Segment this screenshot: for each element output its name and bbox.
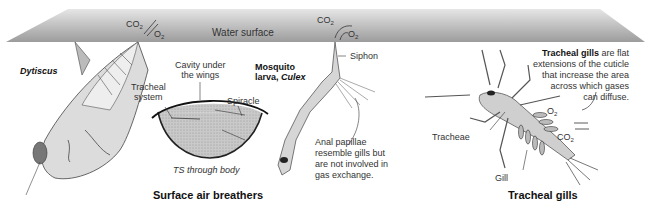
tracheal-system-label: Tracheal system <box>131 82 166 102</box>
co2-text: CO <box>317 15 331 25</box>
co2-subscript: 2 <box>571 137 574 143</box>
co2-text: CO <box>126 19 140 29</box>
cavity-line2: the wings <box>175 70 226 80</box>
desc-line1: Tracheal gills are flat <box>533 48 629 59</box>
mosquito-name-line2: larva, Culex <box>255 72 306 82</box>
o2-subscript: 2 <box>355 34 358 40</box>
spiracle-label: Spiracle <box>227 96 260 106</box>
anal-note-line3: are not involved in <box>315 159 388 170</box>
ts-caption: TS through body <box>173 165 240 175</box>
gills-o2-label: O2 <box>547 106 557 119</box>
tracheal-system-line2: system <box>131 92 166 102</box>
dytiscus-co2-label: CO2 <box>126 19 143 32</box>
cavity-label: Cavity under the wings <box>175 60 226 80</box>
surface-air-breathers-heading: Surface air breathers <box>153 189 263 201</box>
co2-subscript: 2 <box>331 20 334 26</box>
water-surface-label: Water surface <box>212 28 274 38</box>
tracheal-gills-description: Tracheal gills are flat extensions of th… <box>533 48 629 103</box>
o2-text: O <box>348 29 355 39</box>
mosquito-co2-label: CO2 <box>317 15 334 28</box>
co2-text: CO <box>557 132 571 142</box>
desc-line5: can diffuse. <box>533 92 629 103</box>
dytiscus-label: Dytiscus <box>20 66 58 76</box>
dytiscus-o2-label: O2 <box>154 29 164 42</box>
desc-line4: across which gases <box>533 81 629 92</box>
tracheal-system-line1: Tracheal <box>131 82 166 92</box>
o2-subscript: 2 <box>554 111 557 117</box>
anal-note-line1: Anal papillae <box>315 137 388 148</box>
anal-note-line4: gas exchange. <box>315 170 388 181</box>
gills-co2-label: CO2 <box>557 132 574 145</box>
anal-note-line2: resemble gills but <box>315 148 388 159</box>
tracheae-label: Tracheae <box>432 132 470 142</box>
cavity-line1: Cavity under <box>175 60 226 70</box>
mosquito-name-line1: Mosquito <box>255 62 306 72</box>
o2-text: O <box>154 29 161 39</box>
co2-subscript: 2 <box>140 24 143 30</box>
o2-text: O <box>547 106 554 116</box>
mosquito-genus: Culex <box>281 72 306 82</box>
mosquito-label: Mosquito larva, Culex <box>255 62 306 82</box>
mosquito-larva-word: larva, <box>255 72 281 82</box>
desc-line1-rest: are flat <box>599 48 629 58</box>
o2-subscript: 2 <box>161 34 164 40</box>
desc-line3: that increase the area <box>533 70 629 81</box>
dytiscus-beetle-illustration <box>26 42 148 195</box>
anal-papillae-note: Anal papillae resemble gills but are not… <box>315 137 388 181</box>
mosquito-o2-label: O2 <box>348 29 358 42</box>
desc-bold-term: Tracheal gills <box>542 48 599 58</box>
cross-section-illustration <box>152 82 268 158</box>
tracheal-gills-heading: Tracheal gills <box>508 189 578 201</box>
gill-label: Gill <box>495 173 508 183</box>
siphon-label: Siphon <box>350 51 378 61</box>
desc-line2: extensions of the cuticle <box>533 59 629 70</box>
